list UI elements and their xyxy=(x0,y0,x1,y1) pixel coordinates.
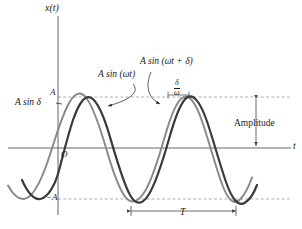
leader-arrow-shifted xyxy=(148,72,160,104)
origin-label: O xyxy=(61,150,68,159)
amplitude-label: Amplitude xyxy=(234,119,275,129)
initial-value-label: A sin δ xyxy=(15,98,41,108)
curve-shifted-label: A sin (ωt + δ) xyxy=(140,57,193,67)
leader-arrow-reference xyxy=(108,84,135,106)
x-axis-label: t xyxy=(293,142,296,152)
phase-shift-label: δ ω xyxy=(174,79,180,97)
amplitude-tick-label: A xyxy=(50,88,56,97)
oscillation-figure: x(t) t A −A O A sin δ A sin (ωt) A sin (… xyxy=(0,0,302,229)
y-axis-label: x(t) xyxy=(45,3,59,13)
curve-reference xyxy=(22,96,257,203)
phase-shift-numerator: δ xyxy=(174,79,180,87)
period-label: T xyxy=(180,208,185,218)
curve-reference-label: A sin (ωt) xyxy=(98,70,135,80)
leader-initial-value xyxy=(56,103,62,104)
negative-amplitude-tick-label: −A xyxy=(46,193,58,202)
phase-shift-denominator: ω xyxy=(174,89,180,97)
